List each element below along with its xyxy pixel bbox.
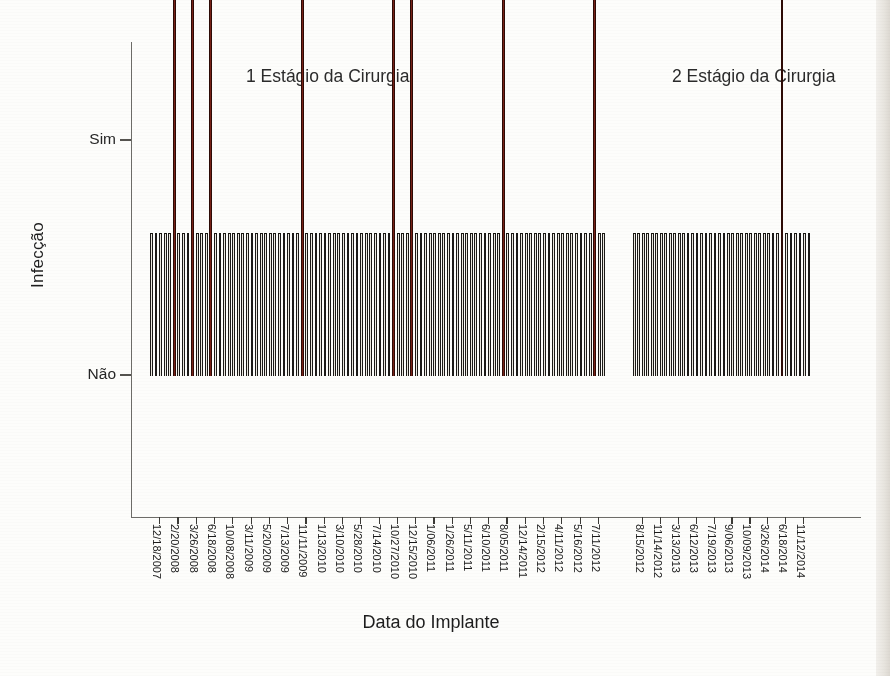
bar-infection-nao	[342, 233, 345, 376]
x-tick-label: 12/18/2007	[151, 524, 163, 579]
bar-infection-nao	[177, 233, 180, 376]
x-tick-mark	[749, 517, 750, 524]
x-tick-label: 7/14/2010	[371, 524, 383, 573]
x-tick-label: 9/06/2013	[723, 524, 735, 573]
x-tick-mark	[433, 517, 434, 524]
bar-infection-nao	[570, 233, 573, 376]
x-tick-mark	[159, 517, 160, 524]
bar-infection-nao	[356, 233, 359, 376]
bar-infection-nao	[388, 233, 391, 376]
x-tick-label: 6/18/2014	[777, 524, 789, 573]
bar-infection-nao	[369, 233, 372, 376]
bar-infection-nao	[278, 233, 281, 376]
bar-infection-nao	[305, 233, 308, 376]
x-tick-mark	[342, 517, 343, 524]
x-axis-title: Data do Implante	[131, 612, 731, 633]
x-tick-mark	[488, 517, 489, 524]
x-tick-label: 2/20/2008	[169, 524, 181, 573]
bar-infection-nao	[696, 233, 699, 376]
x-tick-label: 11/14/2012	[652, 524, 664, 578]
x-tick-mark	[525, 517, 526, 524]
bar-infection-nao	[749, 233, 752, 376]
bar-infection-nao	[479, 233, 482, 376]
bar-infection-nao	[799, 233, 802, 376]
bar-infection-nao	[506, 233, 509, 376]
bar-infection-nao	[557, 233, 560, 376]
x-tick-label: 10/27/2010	[389, 524, 401, 579]
bar-infection-nao	[758, 233, 761, 376]
y-tick-label-sim: Sim	[89, 130, 116, 147]
bar-infection-nao	[470, 233, 473, 376]
bar-infection-nao	[740, 233, 743, 376]
y-tick-label-nao: Não	[88, 365, 116, 382]
bar-infection-nao	[655, 233, 658, 376]
x-tick-mark	[803, 517, 804, 524]
bar-infection-nao	[727, 233, 730, 376]
bar-infection-nao	[461, 233, 464, 376]
x-tick-label: 7/19/2013	[706, 524, 718, 573]
bar-infection-sim	[410, 0, 413, 376]
x-tick-mark	[269, 517, 270, 524]
bar-infection-nao	[516, 233, 519, 376]
bar-infection-nao	[718, 233, 721, 376]
bar-infection-nao	[497, 233, 500, 376]
bar-infection-nao	[465, 233, 468, 376]
x-tick-mark	[785, 517, 786, 524]
bar-infection-nao	[723, 233, 726, 376]
bar-infection-nao	[287, 233, 290, 376]
bar-infection-nao	[529, 233, 532, 376]
bar-infection-nao	[379, 233, 382, 376]
bar-infection-sim	[301, 0, 304, 376]
bar-infection-nao	[223, 233, 226, 376]
bar-infection-sim	[502, 0, 505, 376]
bar-infection-nao	[705, 233, 708, 376]
x-tick-label: 5/16/2012	[572, 524, 584, 573]
bar-infection-nao	[456, 233, 459, 376]
x-tick-mark	[379, 517, 380, 524]
bar-infection-nao	[642, 233, 645, 376]
bar-infection-nao	[232, 233, 235, 376]
bar-infection-nao	[584, 233, 587, 376]
bar-infection-nao	[187, 233, 190, 376]
x-tick-mark	[696, 517, 697, 524]
x-tick-mark	[580, 517, 581, 524]
bar-infection-nao	[714, 233, 717, 376]
x-tick-mark	[214, 517, 215, 524]
bar-infection-nao	[682, 233, 685, 376]
x-tick-mark	[767, 517, 768, 524]
bar-infection-nao	[205, 233, 208, 376]
bar-infection-nao	[273, 233, 276, 376]
x-tick-mark	[305, 517, 306, 524]
bar-infection-nao	[488, 233, 491, 376]
bar-infection-nao	[543, 233, 546, 376]
x-tick-label: 10/09/2013	[741, 524, 753, 579]
x-tick-mark	[642, 517, 643, 524]
bar-infection-nao	[159, 233, 162, 376]
bar-infection-nao	[296, 233, 299, 376]
bar-infection-nao	[534, 233, 537, 376]
bar-infection-nao	[548, 233, 551, 376]
bar-infection-nao	[763, 233, 766, 376]
y-tick-label-sim-wrapper: Sim	[0, 130, 116, 148]
x-tick-label: 3/10/2010	[334, 524, 346, 573]
bar-infection-nao	[637, 233, 640, 376]
bar-infection-nao	[767, 233, 770, 376]
bar-infection-nao	[561, 233, 564, 376]
x-tick-label: 7/11/2012	[590, 524, 602, 572]
bar-infection-nao	[433, 233, 436, 376]
x-tick-label: 7/13/2009	[279, 524, 291, 573]
bar-infection-nao	[678, 233, 681, 376]
bar-infection-nao	[168, 233, 171, 376]
x-tick-label: 5/11/2011	[462, 524, 474, 571]
y-tick-mark-sim	[120, 139, 131, 141]
bar-infection-nao	[589, 233, 592, 376]
bar-infection-nao	[646, 233, 649, 376]
bar-infection-nao	[365, 233, 368, 376]
x-tick-label: 6/12/2013	[688, 524, 700, 573]
x-tick-mark	[678, 517, 679, 524]
bar-infection-nao	[315, 233, 318, 376]
bar-infection-nao	[415, 233, 418, 376]
x-tick-label: 5/28/2010	[352, 524, 364, 573]
bar-infection-nao	[566, 233, 569, 376]
x-tick-mark	[714, 517, 715, 524]
